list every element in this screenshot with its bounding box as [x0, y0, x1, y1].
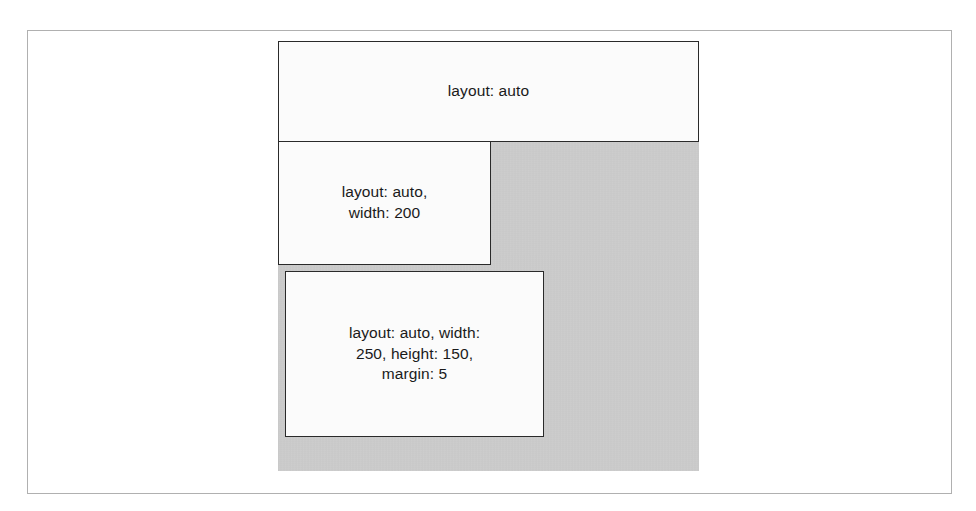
layout-box-auto-width: layout: auto, width: 200	[278, 141, 491, 265]
layout-container: layout: auto layout: auto, width: 200 la…	[278, 41, 699, 471]
figure-frame: layout: auto layout: auto, width: 200 la…	[27, 30, 952, 494]
layout-box-auto-width-label: layout: auto, width: 200	[342, 182, 428, 223]
layout-box-auto-width-height-margin-label: layout: auto, width: 250, height: 150, m…	[349, 323, 480, 385]
layout-box-auto-label: layout: auto	[448, 81, 529, 102]
layout-box-auto-width-height-margin: layout: auto, width: 250, height: 150, m…	[285, 271, 544, 437]
layout-box-auto: layout: auto	[278, 41, 699, 142]
